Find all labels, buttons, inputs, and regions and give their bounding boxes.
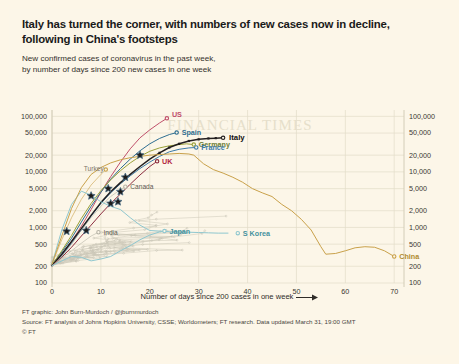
svg-text:1,000: 1,000 <box>29 223 47 232</box>
x-axis-title: Number of days since 200 cases in one we… <box>0 292 459 301</box>
footer-copyright: © FT <box>22 327 442 337</box>
svg-text:Italy: Italy <box>229 133 245 142</box>
svg-text:2,000: 2,000 <box>29 206 47 215</box>
svg-text:50,000: 50,000 <box>409 128 431 137</box>
svg-text:500: 500 <box>35 240 47 249</box>
svg-text:100: 100 <box>35 278 47 287</box>
svg-text:50,000: 50,000 <box>25 128 47 137</box>
subtitle-line-1: New confirmed cases of coronavirus in th… <box>22 53 432 64</box>
svg-text:China: China <box>399 252 420 261</box>
svg-text:10,000: 10,000 <box>25 167 47 176</box>
chart-footer: FT graphic: John Burn-Murdoch / @jburnmu… <box>22 307 442 337</box>
page-title: Italy has turned the corner, with number… <box>22 17 432 47</box>
svg-text:100,000: 100,000 <box>409 112 435 121</box>
svg-text:Turkey: Turkey <box>84 165 105 173</box>
svg-text:Spain: Spain <box>182 128 202 137</box>
footer-credit: FT graphic: John Burn-Murdoch / @jburnmu… <box>22 307 442 317</box>
line-chart-svg: FINANCIAL TIMES USSpainItalyGermanyFranc… <box>0 96 459 296</box>
svg-text:S Korea: S Korea <box>243 229 271 238</box>
svg-text:100,000: 100,000 <box>21 112 47 121</box>
arrow-icon <box>296 294 318 301</box>
chart-header: Italy has turned the corner, with number… <box>22 17 432 75</box>
svg-text:France: France <box>201 143 225 152</box>
svg-text:100: 100 <box>409 278 421 287</box>
svg-text:India: India <box>103 229 118 236</box>
svg-text:20,000: 20,000 <box>25 151 47 160</box>
footer-source: Source: FT analysis of Johns Hopkins Uni… <box>22 317 442 327</box>
y-axis-right-ticklabels: 1002005001,0002,0005,00010,00020,00050,0… <box>409 112 435 288</box>
y-axis-left-ticklabels: 1002005001,0002,0005,00010,00020,00050,0… <box>21 112 47 288</box>
chart-page: Italy has turned the corner, with number… <box>0 0 459 364</box>
svg-text:5,000: 5,000 <box>409 184 427 193</box>
x-axis-title-text: Number of days since 200 cases in one we… <box>141 292 294 301</box>
svg-text:UK: UK <box>162 157 173 166</box>
background-country-lines <box>51 211 227 266</box>
svg-text:500: 500 <box>409 240 421 249</box>
svg-text:Canada: Canada <box>130 183 153 190</box>
svg-text:2,000: 2,000 <box>409 206 427 215</box>
svg-text:1,000: 1,000 <box>409 223 427 232</box>
svg-text:5,000: 5,000 <box>29 184 47 193</box>
star-markers <box>63 151 144 235</box>
plot-area: FINANCIAL TIMES USSpainItalyGermanyFranc… <box>0 96 459 296</box>
svg-text:10,000: 10,000 <box>409 167 431 176</box>
svg-text:200: 200 <box>409 262 421 271</box>
svg-text:200: 200 <box>35 262 47 271</box>
svg-text:20,000: 20,000 <box>409 151 431 160</box>
svg-text:Japan: Japan <box>169 227 190 236</box>
svg-text:US: US <box>172 110 182 119</box>
chart-subtitle: New confirmed cases of coronavirus in th… <box>22 53 432 75</box>
subtitle-line-2: by number of days since 200 new cases in… <box>22 64 432 75</box>
